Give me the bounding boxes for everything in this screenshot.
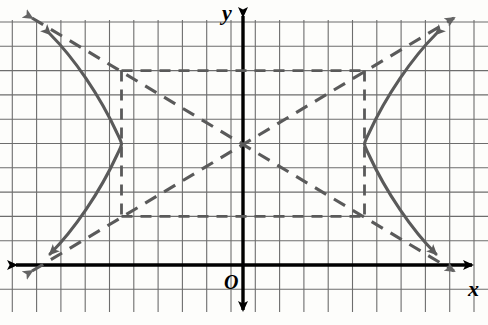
y-axis-label: y xyxy=(222,2,232,24)
x-axis-label: x xyxy=(468,278,479,300)
origin-label: O xyxy=(224,272,238,292)
axes xyxy=(16,16,472,310)
coordinate-plane-svg xyxy=(0,0,488,325)
graph-figure: y x O xyxy=(0,0,488,325)
